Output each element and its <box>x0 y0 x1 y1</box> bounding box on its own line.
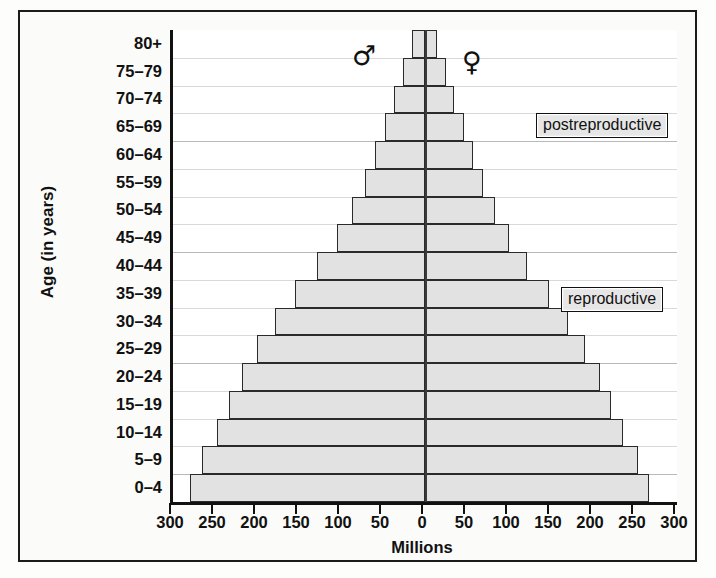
bar-male-30-34 <box>275 308 425 336</box>
bar-male-75-79 <box>403 58 425 86</box>
bar-male-60-64 <box>375 141 425 169</box>
y-axis-tick-labels: 80+75–7970–7465–6960–6455–5950–5445–4940… <box>62 30 162 502</box>
bar-female-40-44 <box>425 252 527 280</box>
bar-female-45-49 <box>425 224 509 252</box>
bar-female-50-54 <box>425 197 495 225</box>
bar-female-5-9 <box>425 446 638 474</box>
y-tick-label: 55–59 <box>70 173 162 192</box>
annotation-reproductive: reproductive <box>561 287 663 312</box>
y-tick-label: 35–39 <box>70 284 162 303</box>
bar-male-10-14 <box>217 419 425 447</box>
bar-male-55-59 <box>365 169 425 197</box>
annotation-postreproductive: postreproductive <box>536 113 668 138</box>
female-gender-icon: ♀ <box>462 48 482 75</box>
bar-male-5-9 <box>202 446 425 474</box>
bar-male-0-4 <box>190 474 425 502</box>
y-tick-label: 40–44 <box>70 256 162 275</box>
bar-female-15-19 <box>425 391 611 419</box>
bar-male-15-19 <box>229 391 425 419</box>
bar-male-50-54 <box>352 197 425 225</box>
y-tick-label: 45–49 <box>70 228 162 247</box>
x-axis-title: Millions <box>170 538 674 557</box>
bar-female-75-79 <box>425 58 446 86</box>
bar-male-80+ <box>412 30 425 58</box>
bar-male-70-74 <box>394 86 425 114</box>
y-tick-label: 5–9 <box>70 450 162 469</box>
y-tick-label: 15–19 <box>70 395 162 414</box>
x-axis-tick-labels: 30025020015010050050100150200250300 <box>170 513 674 537</box>
bar-male-25-29 <box>257 335 425 363</box>
bar-male-35-39 <box>295 280 425 308</box>
bar-male-65-69 <box>385 113 425 141</box>
population-pyramid-figure: Age (in years) 80+75–7970–7465–6960–6455… <box>0 0 716 578</box>
male-gender-icon: ♂ <box>352 42 376 69</box>
bar-female-80+ <box>425 30 437 58</box>
bar-female-0-4 <box>425 474 649 502</box>
bar-female-20-24 <box>425 363 600 391</box>
y-tick-label: 10–14 <box>70 423 162 442</box>
bar-female-30-34 <box>425 308 568 336</box>
y-tick-label: 60–64 <box>70 145 162 164</box>
y-tick-label: 0–4 <box>70 478 162 497</box>
bar-female-10-14 <box>425 419 623 447</box>
bar-female-70-74 <box>425 86 454 114</box>
y-tick-label: 20–24 <box>70 367 162 386</box>
y-tick-label: 70–74 <box>70 89 162 108</box>
y-tick-label: 25–29 <box>70 339 162 358</box>
bar-female-35-39 <box>425 280 549 308</box>
bar-male-20-24 <box>242 363 425 391</box>
plot-area <box>170 30 677 505</box>
x-tick-label: 300 <box>644 513 704 532</box>
y-tick-label: 80+ <box>70 34 162 53</box>
y-tick-label: 65–69 <box>70 117 162 136</box>
center-axis-line <box>425 30 427 502</box>
bar-female-55-59 <box>425 169 483 197</box>
bar-female-25-29 <box>425 335 585 363</box>
y-tick-label: 50–54 <box>70 200 162 219</box>
y-tick-label: 75–79 <box>70 62 162 81</box>
bar-male-40-44 <box>317 252 425 280</box>
bar-male-45-49 <box>337 224 425 252</box>
y-tick-label: 30–34 <box>70 312 162 331</box>
y-axis-title: Age (in years) <box>38 142 58 342</box>
bar-female-60-64 <box>425 141 473 169</box>
bar-female-65-69 <box>425 113 464 141</box>
